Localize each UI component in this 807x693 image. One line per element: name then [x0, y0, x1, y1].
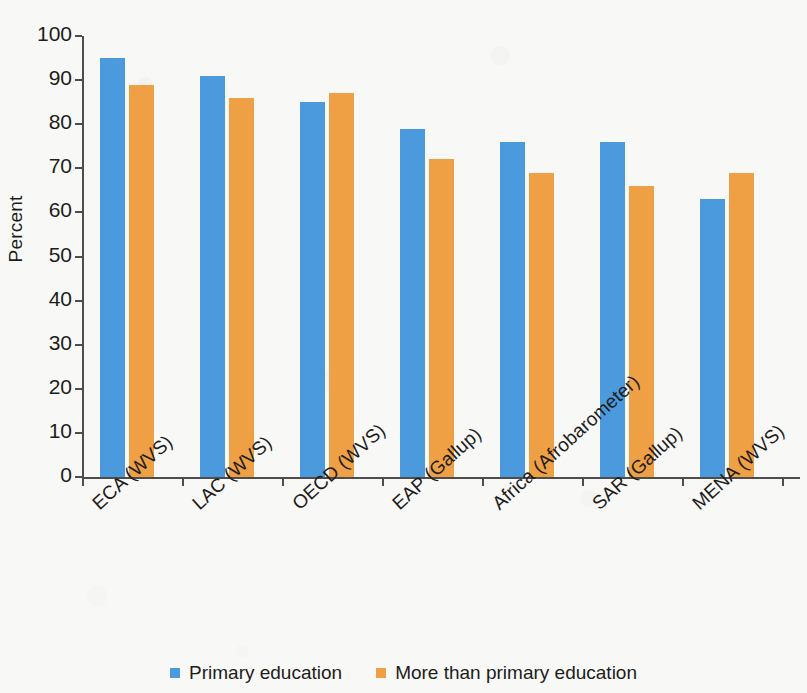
- y-tick-label-60: 60: [26, 198, 72, 222]
- y-tick-label-0: 0: [26, 463, 72, 487]
- y-tick-label-70: 70: [26, 154, 72, 178]
- y-tick-label-20: 20: [26, 375, 72, 399]
- x-tick-5: [582, 478, 584, 486]
- bar: [629, 186, 654, 477]
- bar: [300, 102, 325, 477]
- x-tick-end: [782, 478, 784, 486]
- x-tick-3: [382, 478, 384, 486]
- y-axis-title: Percent: [5, 189, 27, 269]
- bar: [229, 98, 254, 477]
- bar: [500, 142, 525, 477]
- legend-item: More than primary education: [376, 662, 637, 684]
- bar: [529, 173, 554, 477]
- bar: [600, 142, 625, 477]
- y-tick-40: [75, 300, 82, 302]
- y-tick-label-30: 30: [26, 331, 72, 355]
- x-tick-6: [682, 478, 684, 486]
- y-tick-label-10: 10: [26, 419, 72, 443]
- legend-swatch-icon: [376, 668, 386, 678]
- bar: [100, 58, 125, 477]
- legend-label: Primary education: [189, 662, 342, 684]
- y-tick-80: [75, 123, 82, 125]
- bar-chart-figure: Percent 0102030405060708090100 ECA (WVS)…: [0, 0, 807, 693]
- y-axis-line: [82, 36, 84, 478]
- y-tick-70: [75, 167, 82, 169]
- y-tick-100: [75, 35, 82, 37]
- y-tick-30: [75, 344, 82, 346]
- x-tick-0: [82, 478, 84, 486]
- y-tick-0: [75, 476, 82, 478]
- bar: [700, 199, 725, 477]
- y-tick-label-40: 40: [26, 287, 72, 311]
- legend-swatch-icon: [170, 668, 180, 678]
- bar: [729, 173, 754, 477]
- y-tick-label-90: 90: [26, 66, 72, 90]
- x-tick-4: [482, 478, 484, 486]
- legend-label: More than primary education: [395, 662, 637, 684]
- y-tick-label-80: 80: [26, 110, 72, 134]
- plot-area: 0102030405060708090100 ECA (WVS)LAC (WVS…: [82, 36, 800, 478]
- y-tick-label-50: 50: [26, 243, 72, 267]
- y-tick-10: [75, 432, 82, 434]
- x-tick-2: [282, 478, 284, 486]
- bar: [429, 159, 454, 477]
- bar: [129, 85, 154, 477]
- bar: [329, 93, 354, 477]
- bar: [200, 76, 225, 477]
- chart-legend: Primary educationMore than primary educa…: [0, 662, 807, 684]
- y-tick-50: [75, 256, 82, 258]
- bar: [400, 129, 425, 477]
- x-tick-1: [182, 478, 184, 486]
- y-tick-60: [75, 211, 82, 213]
- y-tick-label-100: 100: [26, 22, 72, 46]
- y-tick-90: [75, 79, 82, 81]
- legend-item: Primary education: [170, 662, 342, 684]
- y-tick-20: [75, 388, 82, 390]
